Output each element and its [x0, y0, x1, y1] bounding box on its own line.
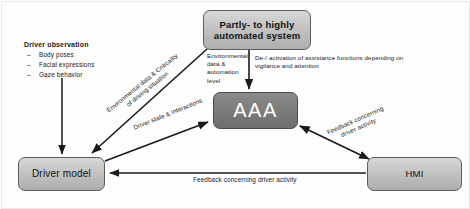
node-hmi[interactable]: HMI [367, 157, 462, 191]
driver-observation-list: Body poses Facial expressions Gaze behav… [27, 50, 95, 80]
node-automated-system[interactable]: Partly- to highly automated system [203, 10, 311, 50]
driver-observation-heading: Driver observation [24, 40, 89, 49]
node-aaa[interactable]: AAA [213, 92, 298, 129]
node-driver-model[interactable]: Driver model [18, 157, 105, 191]
diagram-canvas: Partly- to highly automated system AAA D… [0, 0, 470, 209]
list-item: Gaze behavior [27, 70, 95, 80]
edge-label-feedback-driver-activity-bottom: Feedback concerning driver activity [193, 176, 297, 184]
edge-label-env-data-automation-level: Environmental data & automation level [207, 52, 251, 85]
edge-label-de-activation: De-/ activation of assistance functions … [255, 54, 405, 70]
list-item: Facial expressions [27, 60, 95, 70]
list-item: Body poses [27, 50, 95, 60]
